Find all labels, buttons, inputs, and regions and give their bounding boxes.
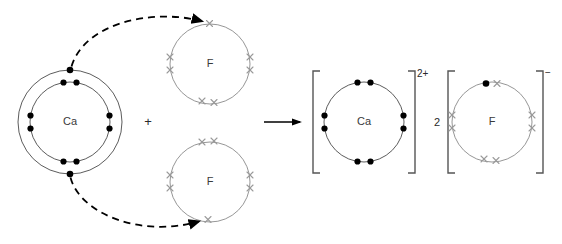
electron-transfer-arrow-top xyxy=(72,17,202,67)
electron-dot xyxy=(321,112,327,118)
calcium-ion-charge-label: 2+ xyxy=(417,68,429,79)
electron-dot xyxy=(354,79,360,85)
electron-dot xyxy=(106,112,112,118)
electron-dot xyxy=(354,158,360,164)
calcium-atom: Ca xyxy=(18,67,122,178)
electron-dot-transferred xyxy=(483,80,490,87)
electron-dot xyxy=(400,125,406,131)
fluoride-ion-charge-label: − xyxy=(545,67,551,78)
fluorine-top-symbol-label: F xyxy=(207,57,214,69)
calcium-symbol-label: Ca xyxy=(63,115,78,127)
electron-cross xyxy=(211,138,217,144)
electron-dot-transferring-top xyxy=(67,67,74,74)
fluorine-bottom-atom: F xyxy=(167,138,253,223)
calcium-ion-right-bracket xyxy=(408,71,415,173)
electron-dot xyxy=(60,158,66,164)
fluoride-ion-group: 2 − F xyxy=(434,67,551,173)
electron-dot xyxy=(400,112,406,118)
electron-cross xyxy=(493,158,499,164)
fluoride-ion-coefficient-label: 2 xyxy=(434,116,440,128)
fluoride-ion-left-bracket xyxy=(448,71,455,173)
electron-transfer-arrow-bottom xyxy=(71,178,199,227)
electron-dot xyxy=(321,125,327,131)
calcium-ion-symbol-label: Ca xyxy=(357,115,372,127)
fluoride-ion-right-bracket xyxy=(536,71,543,173)
electron-dot xyxy=(367,79,373,85)
electron-dot xyxy=(27,125,33,131)
fluorine-top-atom: F xyxy=(167,21,253,106)
fluorine-bottom-symbol-label: F xyxy=(207,175,214,187)
plus-operator: + xyxy=(144,114,152,129)
calcium-ion-group: 2+ Ca xyxy=(313,68,429,173)
electron-dot xyxy=(73,158,79,164)
electron-dot xyxy=(367,158,373,164)
fluoride-ion-symbol-label: F xyxy=(489,115,496,127)
ionic-bonding-diagram: Ca + F xyxy=(0,0,562,244)
calcium-ion-left-bracket xyxy=(313,71,320,173)
electron-dot xyxy=(106,125,112,131)
electron-dot xyxy=(60,79,66,85)
electron-cross xyxy=(494,81,500,87)
electron-cross xyxy=(211,100,217,106)
diagram-canvas: Ca + F xyxy=(0,0,562,244)
electron-cross xyxy=(207,21,213,27)
electron-dot xyxy=(73,79,79,85)
electron-dot xyxy=(27,112,33,118)
electron-dot-transferring-bottom xyxy=(67,171,74,178)
